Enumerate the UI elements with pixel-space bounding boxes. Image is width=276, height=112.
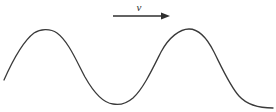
velocity-arrow-head-icon bbox=[161, 13, 170, 20]
velocity-label: v bbox=[137, 2, 142, 13]
wave-figure: v bbox=[0, 0, 276, 112]
sine-wave-curve bbox=[4, 29, 273, 108]
velocity-arrow bbox=[113, 13, 170, 20]
wave-diagram-canvas bbox=[0, 0, 276, 112]
